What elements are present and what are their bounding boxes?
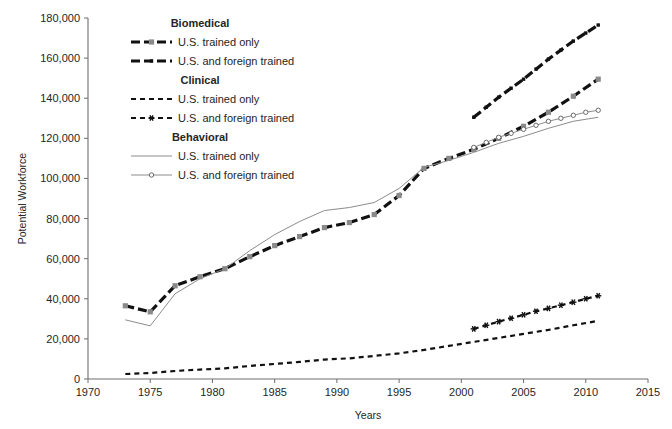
x-tick-label: 1985 <box>262 386 286 398</box>
data-point-marker <box>571 94 576 99</box>
x-axis-title: Years <box>355 409 381 421</box>
data-point-marker <box>472 116 475 119</box>
data-point-marker <box>497 96 500 99</box>
data-point-marker <box>547 57 550 60</box>
data-point-marker <box>485 106 488 109</box>
legend-group-heading: Clinical <box>180 74 219 86</box>
x-tick-label: 2010 <box>574 386 598 398</box>
y-tick-label: 80,000 <box>46 213 80 225</box>
series-biomedical-u-s-and-foreign-trained <box>472 23 600 119</box>
x-tick-label: 1995 <box>387 386 411 398</box>
chart-container: 020,00040,00060,00080,000100,000120,0001… <box>0 0 672 429</box>
data-point-marker <box>509 131 513 135</box>
data-point-marker <box>546 110 551 115</box>
legend-entry[interactable]: U.S. and foreign trained <box>131 169 294 181</box>
x-tick-label: 1975 <box>138 386 162 398</box>
x-tick-label: 1970 <box>76 386 100 398</box>
data-point-marker <box>322 225 327 230</box>
data-point-marker <box>484 140 488 144</box>
data-point-marker <box>596 108 600 112</box>
data-point-marker <box>173 283 178 288</box>
data-point-marker <box>559 48 562 51</box>
data-point-marker <box>597 23 600 26</box>
data-point-marker <box>471 326 477 331</box>
legend-group-heading: Behavioral <box>172 131 228 143</box>
series-behavioral-u-s-and-foreign-trained <box>472 108 601 150</box>
data-point-marker <box>149 39 154 44</box>
y-tick-label: 160,000 <box>40 52 80 64</box>
legend-entry-label: U.S. trained only <box>178 36 260 48</box>
data-point-marker <box>572 39 575 42</box>
data-point-marker <box>584 110 588 114</box>
data-point-marker <box>272 243 277 248</box>
data-point-marker <box>583 296 589 301</box>
data-point-marker <box>520 312 526 317</box>
y-tick-label: 180,000 <box>40 12 80 24</box>
data-point-marker <box>509 86 512 89</box>
data-point-marker <box>397 193 402 198</box>
x-tick-label: 2000 <box>449 386 473 398</box>
y-tick-label: 120,000 <box>40 132 80 144</box>
legend-entry-label: U.S. trained only <box>178 150 260 162</box>
data-point-marker <box>546 119 550 123</box>
series-line <box>125 117 598 326</box>
data-point-marker <box>123 303 128 308</box>
series-line <box>474 110 598 147</box>
series-behavioral-u-s-trained-only <box>125 117 598 326</box>
legend-entry[interactable]: U.S. trained only <box>131 93 260 105</box>
data-point-marker <box>595 293 601 298</box>
y-tick-label: 20,000 <box>46 333 80 345</box>
x-tick-label: 2005 <box>511 386 535 398</box>
data-point-marker <box>148 115 154 120</box>
data-point-marker <box>596 77 601 82</box>
data-point-marker <box>534 123 538 127</box>
data-point-marker <box>533 309 539 314</box>
legend-entry[interactable]: U.S. trained only <box>131 150 260 162</box>
data-point-marker <box>496 135 500 139</box>
axes: 020,00040,00060,00080,000100,000120,0001… <box>40 12 660 398</box>
data-point-marker <box>558 303 564 308</box>
data-point-marker <box>149 173 153 177</box>
y-tick-label: 100,000 <box>40 172 80 184</box>
data-point-marker <box>559 116 563 120</box>
data-point-marker <box>521 127 525 131</box>
line-chart: 020,00040,00060,00080,000100,000120,0001… <box>0 0 672 429</box>
series-line <box>474 25 598 117</box>
data-point-marker <box>508 316 514 321</box>
data-point-marker <box>571 113 575 117</box>
series-clinical-u-s-and-foreign-trained <box>471 293 602 331</box>
y-tick-label: 60,000 <box>46 253 80 265</box>
legend-entry-label: U.S. and foreign trained <box>178 55 294 67</box>
data-point-marker <box>372 212 377 217</box>
data-point-marker <box>472 145 476 149</box>
chart-legend: BiomedicalU.S. trained onlyU.S. and fore… <box>131 17 294 181</box>
y-axis-title: Potential Workforce <box>16 153 28 245</box>
data-point-marker <box>347 220 352 225</box>
data-point-marker <box>545 306 551 311</box>
data-point-marker <box>150 59 153 62</box>
y-tick-label: 0 <box>74 373 80 385</box>
series-clinical-u-s-trained-only <box>125 321 598 374</box>
data-point-marker <box>297 234 302 239</box>
x-tick-label: 2015 <box>636 386 660 398</box>
data-point-marker <box>522 77 525 80</box>
x-tick-label: 1980 <box>200 386 224 398</box>
x-tick-label: 1990 <box>325 386 349 398</box>
data-point-marker <box>247 254 252 259</box>
y-tick-label: 140,000 <box>40 92 80 104</box>
data-point-marker <box>483 323 489 328</box>
axis-titles: YearsPotential Workforce <box>16 153 381 421</box>
legend-entry[interactable]: U.S. and foreign trained <box>131 112 294 124</box>
legend-entry[interactable]: U.S. and foreign trained <box>131 55 294 67</box>
legend-entry-label: U.S. trained only <box>178 93 260 105</box>
y-tick-label: 40,000 <box>46 293 80 305</box>
data-point-marker <box>534 67 537 70</box>
data-point-marker <box>496 319 502 324</box>
legend-entry-label: U.S. and foreign trained <box>178 112 294 124</box>
legend-entry-label: U.S. and foreign trained <box>178 169 294 181</box>
legend-entry[interactable]: U.S. trained only <box>131 36 260 48</box>
legend-group-heading: Biomedical <box>171 17 230 29</box>
data-point-marker <box>570 300 576 305</box>
series-line <box>125 321 598 374</box>
data-point-marker <box>584 31 587 34</box>
